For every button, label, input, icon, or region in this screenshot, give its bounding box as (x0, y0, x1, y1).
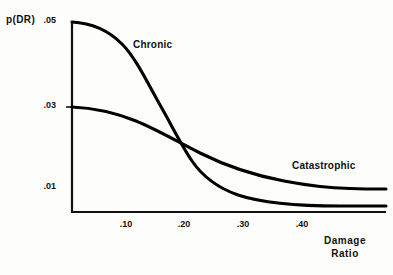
y-tick-label-05: .05 (28, 15, 56, 25)
series-annotation-chronic: Chronic (133, 39, 172, 50)
x-tick-label-10: .10 (106, 219, 146, 229)
x-axis-title-line2: Ratio (305, 247, 385, 260)
y-tick-label-03: .03 (28, 100, 56, 110)
x-tick-label-30: .30 (223, 219, 263, 229)
x-tick-label-20: .20 (164, 219, 204, 229)
x-tick-label-40: .40 (282, 219, 322, 229)
series-annotation-catastrophic: Catastrophic (292, 160, 356, 171)
y-tick-label-01: .01 (28, 181, 56, 191)
x-axis-title-line1: Damage (305, 234, 385, 247)
chart-figure: p(DR) .05 .03 .01 .10 .20 .30 .40 Damage… (0, 0, 393, 275)
series-line-catastrophic (72, 107, 386, 189)
